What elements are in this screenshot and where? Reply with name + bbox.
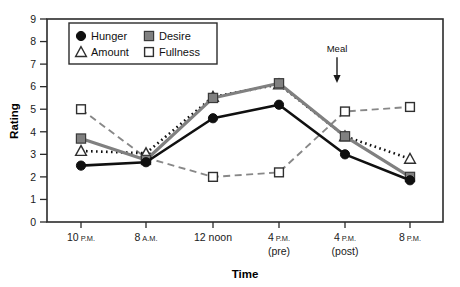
marker-filled-square [274, 79, 283, 88]
marker-open-square [406, 103, 415, 112]
marker-filled-circle [76, 31, 85, 40]
y-tick-label: 0 [30, 216, 36, 228]
y-tick-label: 4 [30, 126, 36, 138]
x-tick-label: 12 noon [194, 231, 232, 243]
x-tick-label-sub: (post) [332, 245, 359, 257]
marker-filled-square [144, 31, 153, 40]
marker-filled-circle [274, 100, 283, 109]
marker-open-square [145, 48, 154, 57]
y-tick-label: 5 [30, 103, 36, 115]
y-tick-label: 1 [30, 193, 36, 205]
marker-filled-circle [340, 150, 349, 159]
x-tick-label-sub: (pre) [268, 245, 290, 257]
legend-label: Amount [91, 46, 129, 58]
y-tick-label: 3 [30, 148, 36, 160]
legend-entry-fullness: Fullness [145, 46, 201, 58]
marker-filled-square [76, 134, 85, 143]
marker-filled-circle [76, 161, 85, 170]
chart-legend: HungerDesireAmountFullness [69, 23, 217, 64]
x-axis-title: Time [232, 268, 259, 280]
y-tick-label: 2 [30, 171, 36, 183]
legend-label: Hunger [91, 30, 127, 42]
marker-open-square [77, 105, 86, 114]
legend-label: Fullness [159, 46, 200, 58]
annotation-label: Meal [327, 43, 348, 54]
marker-filled-square [208, 93, 217, 102]
chart-container: 0123456789 10P.M.8A.M.12 noon4P.M.(pre)4… [0, 0, 460, 287]
y-tick-label: 6 [30, 80, 36, 92]
marker-open-square [275, 168, 284, 177]
legend-label: Desire [159, 30, 191, 42]
rating-vs-time-line-chart: 0123456789 10P.M.8A.M.12 noon4P.M.(pre)4… [0, 0, 460, 287]
y-tick-label: 7 [30, 58, 36, 70]
marker-filled-circle [208, 114, 217, 123]
marker-open-square [341, 107, 350, 116]
y-tick-label: 8 [30, 35, 36, 47]
y-axis-title: Rating [8, 103, 20, 139]
marker-filled-circle [405, 176, 414, 185]
y-tick-label: 9 [30, 13, 36, 25]
marker-filled-square [340, 132, 349, 141]
legend-entry-desire: Desire [144, 30, 190, 42]
marker-open-square [209, 172, 218, 181]
marker-filled-circle [141, 158, 150, 167]
